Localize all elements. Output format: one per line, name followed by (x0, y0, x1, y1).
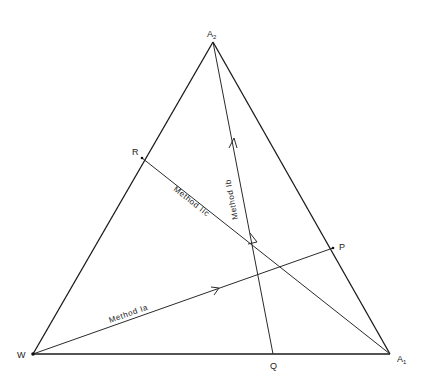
point-w-marker (31, 352, 35, 356)
point-label-q: Q (270, 361, 277, 371)
vertex-label-a2: A2 (207, 29, 217, 40)
path-method-ia (33, 248, 333, 354)
vertex-label-a1: A1 (397, 354, 407, 365)
edge-a2-a1 (213, 42, 390, 354)
point-r-marker (141, 157, 144, 160)
ternary-diagram: A2 W A1 R P Q Method Ia Method Ib Method… (0, 0, 426, 386)
method-ia-label: Method Ia (108, 303, 150, 325)
method-iic-label: Method IIc (172, 185, 212, 219)
point-label-p: P (339, 242, 345, 252)
method-ib-label: Method Ib (223, 178, 240, 220)
vertex-label-w: W (17, 350, 26, 360)
path-method-ib (213, 42, 273, 354)
point-p-marker (332, 247, 335, 250)
point-label-r: R (132, 147, 139, 157)
